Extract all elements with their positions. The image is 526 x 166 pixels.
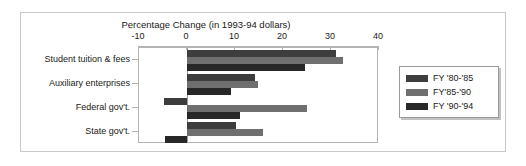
x-axis-tick bbox=[378, 46, 379, 50]
bar bbox=[187, 64, 305, 71]
bar bbox=[187, 50, 336, 57]
plot-area bbox=[138, 47, 378, 143]
legend-label: FY '80-'85 bbox=[433, 73, 473, 83]
legend-item: FY '90-'94 bbox=[406, 100, 473, 112]
bar bbox=[187, 105, 307, 112]
legend-item: FY'85-'90 bbox=[406, 86, 471, 98]
bar bbox=[187, 74, 255, 81]
x-axis-tick-label: -10 bbox=[118, 31, 158, 41]
bar bbox=[164, 98, 187, 105]
chart-figure: Percentage Change (in 1993-94 dollars) -… bbox=[20, 12, 506, 152]
legend-swatch bbox=[406, 103, 428, 110]
x-axis-tick-label: 40 bbox=[358, 31, 398, 41]
bar bbox=[187, 57, 343, 64]
x-axis-tick-label: 30 bbox=[310, 31, 350, 41]
x-axis-tick-label: 10 bbox=[214, 31, 254, 41]
chart-legend: FY '80-'85FY'85-'90FY '90-'94 bbox=[399, 66, 499, 118]
bar bbox=[187, 112, 240, 119]
bar bbox=[187, 88, 231, 95]
x-axis-tick-label: 20 bbox=[262, 31, 302, 41]
category-label: Federal gov't. bbox=[0, 102, 130, 112]
legend-label: FY'85-'90 bbox=[433, 87, 471, 97]
bar bbox=[165, 136, 187, 143]
bar bbox=[187, 81, 258, 88]
legend-swatch bbox=[406, 89, 428, 96]
x-axis-tick-label: 0 bbox=[166, 31, 206, 41]
bar bbox=[187, 129, 263, 136]
category-label: Auxiliary enterprises bbox=[0, 78, 130, 88]
legend-label: FY '90-'94 bbox=[433, 101, 473, 111]
legend-swatch bbox=[406, 75, 428, 82]
chart-title: Percentage Change (in 1993-94 dollars) bbox=[21, 19, 391, 30]
category-label: Student tuition & fees bbox=[0, 54, 130, 64]
bar bbox=[187, 122, 236, 129]
category-label: State gov't. bbox=[0, 126, 130, 136]
legend-item: FY '80-'85 bbox=[406, 72, 473, 84]
